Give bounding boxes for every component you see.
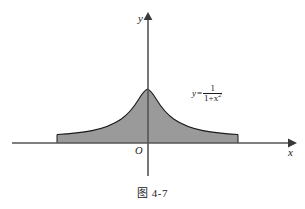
plot-canvas (0, 0, 305, 209)
fraction-denominator: 1+x2 (203, 94, 222, 103)
denominator-base: 1+x (204, 93, 218, 103)
y-axis-label: y (138, 13, 143, 24)
x-axis-label: x (288, 147, 293, 158)
equation-equals-sign: = (197, 89, 202, 98)
denominator-exponent: 2 (218, 91, 221, 98)
y-axis-arrow-icon (144, 12, 153, 20)
figure-container: y x O y= 1 1+x2 图 4-7 (0, 0, 305, 209)
curve-equation-label: y= 1 1+x2 (192, 84, 222, 104)
figure-caption: 图 4-7 (0, 184, 305, 200)
origin-label: O (135, 146, 143, 157)
equation-left-side: y (192, 89, 196, 98)
equation-fraction: 1 1+x2 (203, 84, 222, 104)
